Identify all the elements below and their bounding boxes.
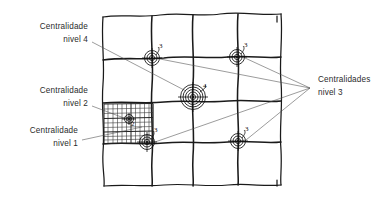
annotation-centralidades-nivel-3: Centralidades nivel 3 <box>318 75 370 97</box>
marker-mesh-block: 2 <box>122 113 136 128</box>
annotation-nivel-1-line1: Centralidade <box>30 126 79 135</box>
annotation-nivel-3-line2: nivel 3 <box>318 88 343 97</box>
annotation-nivel-4-line2: nivel 4 <box>63 35 88 44</box>
leader-nivel-3-a <box>160 59 310 88</box>
centralidades-diagram: 3 3 4 <box>0 0 384 199</box>
leader-nivel-3-b <box>245 58 310 88</box>
marker-label-top-left: 3 <box>159 42 163 50</box>
annotation-nivel-4-line1: Centralidade <box>40 22 89 31</box>
marker-label-top-right: 3 <box>244 41 248 49</box>
grid-vertical-lines <box>151 14 238 186</box>
marker-label-bottom-left: 3 <box>154 126 158 134</box>
leader-nivel-1 <box>82 127 142 140</box>
leader-nivel-3-d <box>246 88 310 140</box>
annotation-centralidade-nivel-2: Centralidade nivel 2 <box>40 86 89 108</box>
marker-label-bottom-right: 3 <box>245 125 249 133</box>
annotation-centralidade-nivel-4: Centralidade nivel 4 <box>40 22 89 44</box>
annotation-nivel-3-line1: Centralidades <box>318 75 370 84</box>
leader-nivel-4 <box>92 42 186 91</box>
figure-canvas: 3 3 4 <box>0 0 384 199</box>
annotation-centralidade-nivel-1: Centralidade nivel 1 <box>30 126 79 148</box>
annotation-nivel-1-line2: nivel 1 <box>53 139 78 148</box>
marker-label-mesh-block: 2 <box>131 120 135 128</box>
annotation-nivel-2-line2: nivel 2 <box>63 99 88 108</box>
leader-nivel-3-c <box>155 88 310 142</box>
marker-center: 4 <box>178 82 208 112</box>
annotation-nivel-2-line1: Centralidade <box>40 86 89 95</box>
marker-label-center: 4 <box>203 82 207 90</box>
